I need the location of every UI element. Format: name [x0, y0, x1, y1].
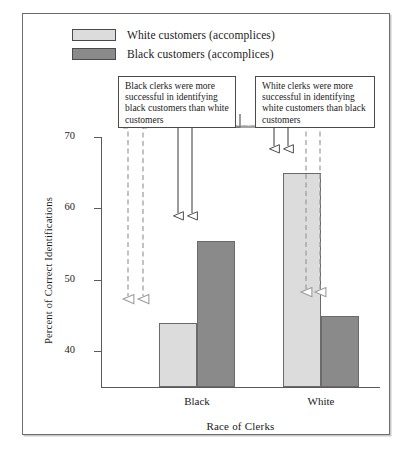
bar-black-clerks-black-customers	[197, 241, 235, 387]
plot-area: Percent of Correct Identifications 70 60…	[79, 137, 379, 389]
x-axis-line	[101, 387, 380, 388]
x-tick-label-black: Black	[159, 395, 235, 407]
y-tick-label-70: 70	[65, 130, 76, 141]
y-tick-label-50: 50	[65, 273, 76, 284]
bar-black-clerks-white-customers	[159, 323, 197, 387]
y-axis-line	[101, 137, 102, 387]
annotation-box-black-clerks: Black clerks were more successful in ide…	[118, 76, 236, 128]
x-tick-label-white: White	[283, 395, 359, 407]
y-tick-label-60: 60	[65, 201, 76, 212]
legend-label-black-customers: Black customers (accomplices)	[127, 48, 274, 60]
legend-swatch-white-customers	[72, 29, 116, 41]
y-axis-title: Percent of Correct Identifications	[43, 197, 54, 344]
chart-legend: White customers (accomplices) Black cust…	[72, 26, 275, 64]
annotation-box-white-clerks: White clerks were more successful in ide…	[255, 76, 375, 128]
legend-item-black-customers: Black customers (accomplices)	[72, 45, 275, 62]
x-axis-title: Race of Clerks	[101, 420, 380, 432]
legend-label-white-customers: White customers (accomplices)	[127, 29, 275, 41]
y-tick-label-40: 40	[65, 344, 76, 355]
bar-white-clerks-black-customers	[321, 316, 359, 387]
figure-frame: White customers (accomplices) Black cust…	[22, 13, 390, 435]
legend-swatch-black-customers	[72, 48, 116, 60]
bar-white-clerks-white-customers	[283, 173, 321, 387]
legend-item-white-customers: White customers (accomplices)	[72, 26, 275, 43]
